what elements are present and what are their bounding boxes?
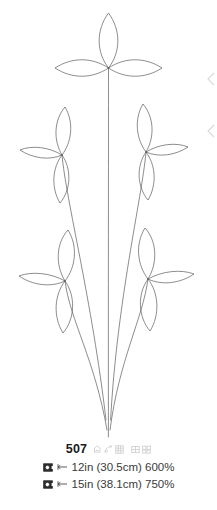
hoop-icon: [43, 463, 53, 472]
size-option-row: 12in (30.5cm) 600%: [0, 459, 217, 475]
petal-mid-right-down: [139, 152, 154, 200]
width-arrow-icon: [57, 480, 68, 488]
petal-top-right: [109, 60, 163, 77]
stitch-type-icon: [93, 445, 102, 454]
color-chart-icon: [115, 445, 124, 454]
hoop-icon: [43, 480, 53, 489]
design-artwork: [0, 0, 217, 440]
petal-mid-right-up: [137, 104, 152, 152]
petal-top-up: [99, 13, 118, 68]
petal-mid-left-down: [54, 155, 69, 203]
petal-low-right-down: [140, 279, 157, 331]
petal-top-left: [55, 60, 109, 77]
petal-mid-left-out: [20, 147, 62, 158]
floral-line-art: [0, 0, 217, 440]
design-number: 507: [66, 441, 87, 458]
petal-low-left-out: [19, 273, 65, 285]
size-label: 12in (30.5cm) 600%: [72, 459, 175, 475]
icon-group-divider: [126, 449, 129, 450]
petal-mid-left-up: [56, 107, 71, 155]
stem-lower-left: [65, 281, 107, 430]
chevron-left-icon: [206, 124, 216, 138]
design-id-row: 507: [0, 441, 217, 458]
chevron-left-icon: [206, 72, 216, 86]
multi-format-icon: [142, 445, 151, 454]
petal-low-left-up: [58, 230, 74, 281]
width-arrow-icon: [57, 463, 68, 471]
design-catalog-page: 507: [0, 0, 217, 510]
petal-low-left-down: [56, 281, 73, 333]
thread-chart-icon: [104, 445, 113, 454]
design-caption: 507: [0, 441, 217, 492]
petal-low-right-out: [148, 271, 194, 283]
size-option-row: 15in (38.1cm) 750%: [0, 476, 217, 492]
stem-upper-right: [111, 152, 146, 420]
format-icon-group: [93, 445, 151, 454]
petal-mid-right-out: [146, 144, 188, 155]
petal-low-right-up: [139, 228, 155, 279]
size-label: 15in (38.1cm) 750%: [72, 476, 175, 492]
grid-layout-icon: [131, 445, 140, 454]
